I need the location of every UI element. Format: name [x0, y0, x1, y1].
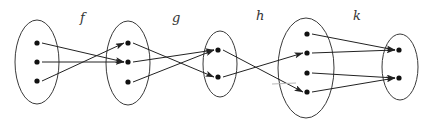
element-b-0 [125, 40, 130, 45]
element-c-0 [215, 47, 220, 52]
element-b-2 [125, 79, 130, 84]
element-b-1 [125, 59, 130, 64]
arrow-g-2-to-0 [133, 50, 214, 82]
function-label-g: g [172, 10, 180, 25]
function-label-h: h [256, 8, 264, 23]
element-c-1 [215, 74, 220, 79]
arrow-k-3-to-1 [312, 78, 395, 92]
arrow-k-1-to-0 [312, 50, 395, 53]
element-d-3 [304, 89, 309, 94]
mapping-diagram: f g h k [0, 0, 428, 119]
element-d-0 [304, 31, 309, 36]
set-e [382, 34, 418, 100]
element-d-1 [304, 50, 309, 55]
element-d-2 [304, 70, 309, 75]
element-a-1 [34, 59, 39, 64]
element-a-2 [34, 78, 39, 83]
element-a-0 [34, 40, 39, 45]
set-c [203, 31, 237, 97]
arrow-k-0-to-0 [312, 34, 395, 50]
element-e-1 [396, 75, 401, 80]
arrow-f-0-to-1 [42, 43, 124, 62]
function-label-f: f [79, 10, 87, 25]
element-e-0 [396, 47, 401, 52]
function-label-k: k [353, 8, 361, 23]
stray-mark [272, 83, 296, 84]
